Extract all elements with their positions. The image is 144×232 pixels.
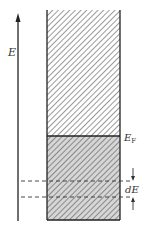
upper-band-hatch [47, 10, 120, 136]
fermi-level-label: EF [123, 132, 136, 145]
energy-band-diagram: E EF dE [0, 0, 144, 232]
energy-axis-label: E [7, 46, 16, 59]
energy-axis-arrow [16, 13, 21, 221]
de-label: dE [125, 184, 139, 195]
filled-states-hatch [47, 136, 120, 220]
